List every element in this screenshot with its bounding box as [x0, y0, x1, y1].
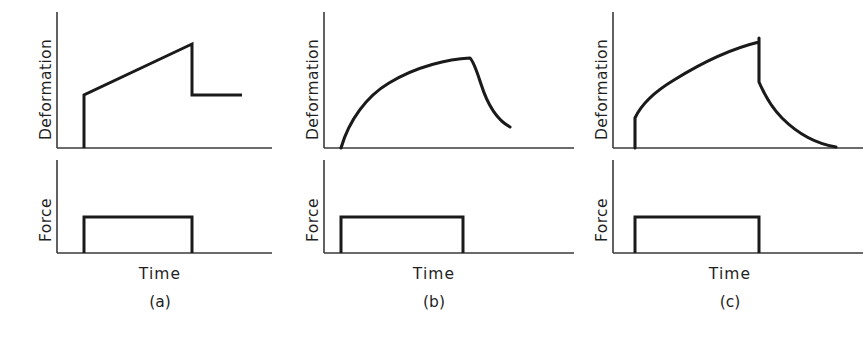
panel-a-deformation-axis-label: Deformation: [37, 39, 55, 140]
panel-a-time-axis-label: Time: [100, 265, 220, 283]
panel-c-deformation-axis-label: Deformation: [593, 39, 611, 140]
creep-recovery-figure: Deformation Force Time (a) Deformation F…: [0, 0, 867, 339]
panel-a-force-pulse: [84, 217, 192, 253]
panel-c: Deformation Force Time (c): [578, 0, 867, 339]
panel-b-plot: [289, 0, 578, 339]
panel-b-time-axis-label: Time: [374, 265, 494, 283]
panel-a-caption: (a): [100, 293, 220, 311]
panel-c-force-pulse: [635, 217, 759, 253]
panel-c-plot: [578, 0, 867, 339]
panel-c-deformation-curve: [635, 38, 836, 148]
panel-a-force-axis-label: Force: [37, 198, 55, 242]
panel-b-force-axis-label: Force: [304, 198, 322, 242]
panel-c-time-axis-label: Time: [670, 265, 790, 283]
panel-b-force-pulse: [341, 217, 463, 253]
panel-b-caption: (b): [374, 293, 494, 311]
panel-a-deformation-curve: [84, 44, 242, 148]
panel-b-deformation-axis-label: Deformation: [304, 39, 322, 140]
panel-b-deformation-curve: [341, 58, 510, 148]
panel-a: Deformation Force Time (a): [0, 0, 289, 339]
panel-c-caption: (c): [670, 293, 790, 311]
panel-c-force-axis-label: Force: [593, 198, 611, 242]
panel-b: Deformation Force Time (b): [289, 0, 578, 339]
